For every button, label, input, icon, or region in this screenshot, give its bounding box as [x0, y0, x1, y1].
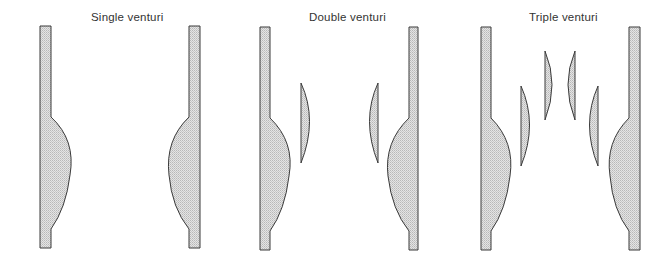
triple-middle-lens-left	[521, 86, 530, 166]
single-right-wall	[168, 26, 200, 248]
triple-inner-lens-left	[545, 51, 552, 120]
triple-inner-lens-right	[568, 51, 575, 120]
triple-left-wall	[481, 27, 511, 250]
triple-middle-lens-right	[590, 86, 599, 166]
double-left-wall	[260, 27, 290, 250]
single-venturi	[40, 26, 200, 248]
triple-venturi	[481, 27, 640, 250]
single-left-wall	[40, 26, 71, 248]
triple-right-wall	[609, 27, 640, 250]
double-inner-lens-left	[301, 83, 310, 163]
venturi-diagram	[0, 0, 672, 265]
double-inner-lens-right	[370, 83, 379, 163]
double-venturi	[260, 27, 418, 250]
double-right-wall	[387, 27, 418, 250]
